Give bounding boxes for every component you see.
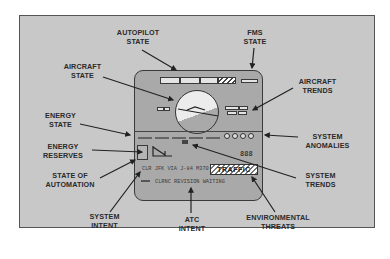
leader-arrows (0, 0, 390, 259)
